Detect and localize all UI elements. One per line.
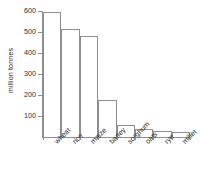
plot-area bbox=[43, 11, 190, 137]
y-tick-label: 300 bbox=[14, 70, 36, 77]
y-tick-label: 200 bbox=[14, 91, 36, 98]
x-tick-mark bbox=[117, 137, 118, 140]
y-tick-label: 600 bbox=[14, 7, 36, 14]
y-tick-label: 100 bbox=[14, 112, 36, 119]
x-tick-mark bbox=[98, 137, 99, 140]
y-tick-mark bbox=[38, 32, 42, 33]
x-tick-mark bbox=[80, 137, 81, 140]
y-tick-mark bbox=[38, 95, 42, 96]
bar bbox=[61, 29, 79, 137]
x-tick-mark bbox=[61, 137, 62, 140]
bar-chart: million tonnes 100200300400500600 wheatr… bbox=[0, 0, 201, 175]
bar bbox=[80, 36, 98, 137]
y-tick-mark bbox=[38, 53, 42, 54]
y-tick-label: 400 bbox=[14, 49, 36, 56]
y-tick-mark bbox=[38, 11, 42, 12]
bar bbox=[43, 12, 61, 137]
x-tick-mark bbox=[153, 137, 154, 140]
x-tick-mark bbox=[135, 137, 136, 140]
y-tick-mark bbox=[38, 116, 42, 117]
x-tick-mark bbox=[172, 137, 173, 140]
x-tick-mark bbox=[190, 137, 191, 140]
y-tick-label: 500 bbox=[14, 28, 36, 35]
x-tick-mark bbox=[43, 137, 44, 140]
y-tick-mark bbox=[38, 74, 42, 75]
